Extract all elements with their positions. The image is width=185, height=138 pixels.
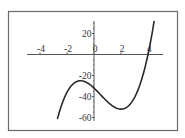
x-tick-label: 0: [93, 44, 98, 54]
y-tick-label: 20: [82, 29, 92, 39]
function-plot: -4-202420-20-40-60: [0, 0, 185, 138]
x-tick-label: -4: [37, 44, 45, 54]
y-tick-label: -40: [79, 92, 92, 102]
x-tick-label: 2: [120, 44, 125, 54]
y-tick-label: -20: [79, 71, 92, 81]
x-tick-label: -2: [64, 44, 72, 54]
y-tick-label: -60: [79, 113, 92, 123]
